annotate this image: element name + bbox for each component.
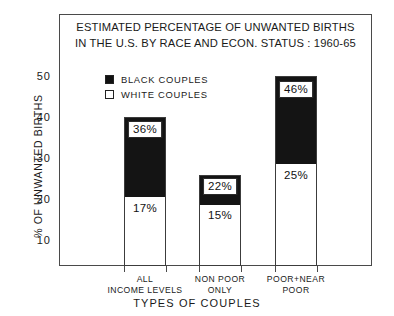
bar-total-label-poor-near-poor: 46% — [279, 81, 313, 98]
x-category-line-2: POOR — [241, 285, 351, 296]
x-category-label-poor-near-poor: POOR+NEAR POOR — [241, 274, 351, 295]
x-tick-mark-4 — [241, 266, 242, 272]
x-tick-mark-5 — [275, 266, 276, 272]
x-tick-mark-2 — [166, 266, 167, 272]
bar-all-income-levels: 36% 17% — [124, 117, 166, 266]
bar-white-label-poor-near-poor: 25% — [284, 169, 308, 182]
y-tick-label-40: 40 — [0, 111, 59, 123]
legend-item-white-couples: WHITE COUPLES — [105, 87, 208, 102]
legend-item-black-couples: BLACK COUPLES — [105, 72, 208, 87]
bar-non-poor-only: 22% 15% — [199, 175, 241, 266]
y-tick-label-30: 30 — [0, 152, 59, 164]
y-tick-label-50: 50 — [0, 70, 59, 82]
y-tick-label-20: 20 — [0, 193, 59, 205]
x-tick-mark-3 — [199, 266, 200, 272]
x-tick-mark-1 — [124, 266, 125, 272]
chart-title-line-1: ESTIMATED PERCENTAGE OF UNWANTED BIRTHS — [64, 19, 367, 35]
y-tick-label-10: 10 — [0, 234, 59, 246]
chart-root: % OF UNWANTED BIRTHS 50 40 30 20 10 ESTI… — [0, 0, 394, 316]
bar-white-label-non-poor-only: 15% — [208, 209, 232, 222]
legend-label-black-couples: BLACK COUPLES — [121, 72, 208, 87]
legend-swatch-white-icon — [105, 90, 114, 99]
bar-total-label-all-income-levels: 36% — [128, 121, 162, 138]
legend: BLACK COUPLES WHITE COUPLES — [105, 72, 208, 102]
x-tick-mark-6 — [317, 266, 318, 272]
bar-white-label-all-income-levels: 17% — [133, 202, 157, 215]
bar-poor-near-poor: 46% 25% — [275, 76, 317, 266]
x-category-line-1: POOR+NEAR — [241, 274, 351, 285]
chart-title-line-2: IN THE U.S. BY RACE AND ECON. STATUS : 1… — [64, 35, 367, 51]
legend-swatch-black-icon — [105, 75, 114, 84]
bar-total-label-non-poor-only: 22% — [203, 178, 237, 195]
chart-title: ESTIMATED PERCENTAGE OF UNWANTED BIRTHS … — [64, 19, 367, 51]
x-axis-title: TYPES OF COUPLES — [0, 297, 394, 309]
legend-label-white-couples: WHITE COUPLES — [121, 87, 208, 102]
